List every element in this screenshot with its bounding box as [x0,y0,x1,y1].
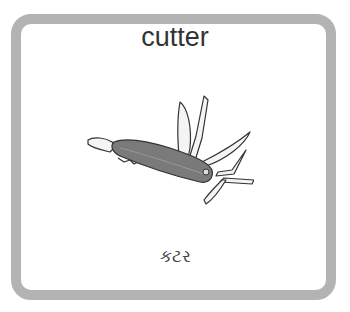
word-translation: કટર [0,248,350,265]
word-title: cutter [0,24,350,51]
multi-tool-pocket-knife-icon [84,88,254,218]
